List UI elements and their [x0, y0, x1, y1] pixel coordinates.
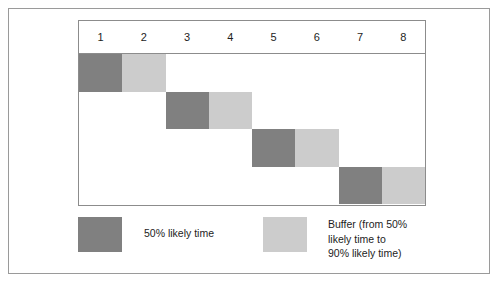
task-bar-buffer: [209, 92, 252, 130]
legend-label: Buffer (from 50% likely time to 90% like…: [328, 217, 407, 261]
gantt-chart: 1 2 3 4 5 6 7 8: [78, 20, 426, 206]
column-header-7: 7: [339, 21, 382, 53]
gantt-column-header-row: 1 2 3 4 5 6 7 8: [79, 21, 425, 54]
gantt-body: [79, 54, 425, 205]
legend-item-buffer: Buffer (from 50% likely time to 90% like…: [263, 217, 407, 261]
task-bar-buffer: [122, 54, 165, 92]
task-row: [79, 167, 425, 205]
task-row: [79, 54, 425, 92]
column-header-4: 4: [209, 21, 252, 53]
column-header-1: 1: [79, 21, 122, 53]
column-header-2: 2: [122, 21, 165, 53]
task-row: [79, 129, 425, 167]
legend-item-core: 50% likely time: [78, 217, 214, 252]
column-header-8: 8: [382, 21, 425, 53]
task-bar-core: [166, 92, 209, 130]
task-bar-core: [252, 129, 295, 167]
task-bar-core: [79, 54, 122, 92]
chart-legend: 50% likely time Buffer (from 50% likely …: [78, 217, 468, 269]
figure-frame: 1 2 3 4 5 6 7 8: [8, 8, 490, 274]
column-header-6: 6: [295, 21, 338, 53]
legend-swatch-icon: [78, 217, 122, 252]
legend-swatch-icon: [263, 217, 307, 252]
column-header-5: 5: [252, 21, 295, 53]
task-bar-core: [339, 167, 382, 205]
task-row: [79, 92, 425, 130]
task-bar-buffer: [382, 167, 425, 205]
task-bar-buffer: [295, 129, 338, 167]
column-header-3: 3: [166, 21, 209, 53]
legend-label: 50% likely time: [144, 217, 214, 241]
